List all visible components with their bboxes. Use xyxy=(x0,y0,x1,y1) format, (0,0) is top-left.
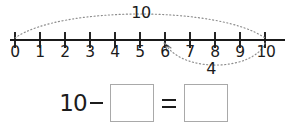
jump-label-bottom: 4 xyxy=(206,61,216,77)
worksheet-canvas: 0 1 2 3 4 5 6 7 8 9 10 10 4 10 xyxy=(0,0,292,126)
jump-label-top: 10 xyxy=(131,5,150,21)
equation-first-term: 10 xyxy=(59,92,87,115)
minus-sign-icon xyxy=(90,102,103,104)
axis-label-1: 1 xyxy=(35,45,45,61)
subtraction-equation: 10 xyxy=(59,84,233,122)
axis-label-5: 5 xyxy=(135,45,145,61)
axis-label-7: 7 xyxy=(185,45,195,61)
equals-sign-icon xyxy=(162,99,176,108)
answer-box-subtrahend[interactable] xyxy=(110,84,154,122)
axis-label-10: 10 xyxy=(256,45,275,61)
axis-label-6: 6 xyxy=(160,45,170,61)
axis-label-4: 4 xyxy=(110,45,120,61)
answer-box-difference[interactable] xyxy=(184,84,228,122)
axis-label-2: 2 xyxy=(60,45,70,61)
equation-row-container: 10 xyxy=(0,78,292,126)
axis-label-0: 0 xyxy=(10,45,20,61)
axis-label-9: 9 xyxy=(235,45,245,61)
axis-label-3: 3 xyxy=(85,45,95,61)
number-line-diagram: 0 1 2 3 4 5 6 7 8 9 10 10 4 xyxy=(0,0,292,78)
